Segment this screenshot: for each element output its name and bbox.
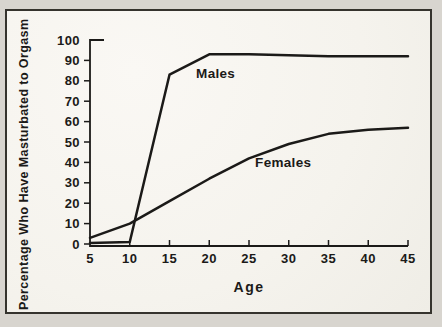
y-tick-label: 70 — [65, 94, 80, 109]
females-label: Females — [255, 155, 311, 170]
y-tick-label: 0 — [72, 237, 80, 252]
scanned-figure-page: 010203040506070809010051015202530354045M… — [0, 0, 442, 327]
y-tick-label: 100 — [57, 33, 80, 48]
y-tick-label: 80 — [65, 73, 80, 88]
x-tick-label: 25 — [241, 251, 256, 266]
axes — [90, 40, 408, 246]
x-tick-label: 10 — [122, 251, 137, 266]
x-tick-label: 30 — [281, 251, 296, 266]
y-tick-label: 50 — [65, 135, 80, 150]
x-tick-label: 20 — [202, 251, 217, 266]
x-tick-label: 15 — [162, 251, 177, 266]
y-axis-title: Percentage Who Have Masturbated to Orgas… — [17, 22, 37, 310]
males-label: Males — [196, 66, 235, 81]
y-tick-label: 40 — [65, 155, 80, 170]
x-tick-label: 40 — [361, 251, 376, 266]
males-line — [90, 54, 408, 243]
x-axis-title: Age — [214, 279, 284, 295]
y-tick-label: 90 — [65, 53, 80, 68]
y-tick-label: 20 — [65, 196, 80, 211]
x-tick-label: 45 — [400, 251, 415, 266]
x-tick-label: 35 — [321, 251, 336, 266]
females-line — [90, 128, 408, 238]
y-tick-label: 30 — [65, 175, 80, 190]
x-tick-label: 5 — [86, 251, 94, 266]
y-tick-label: 60 — [65, 114, 80, 129]
line-chart: 010203040506070809010051015202530354045M… — [0, 0, 442, 327]
y-tick-label: 10 — [65, 216, 80, 231]
